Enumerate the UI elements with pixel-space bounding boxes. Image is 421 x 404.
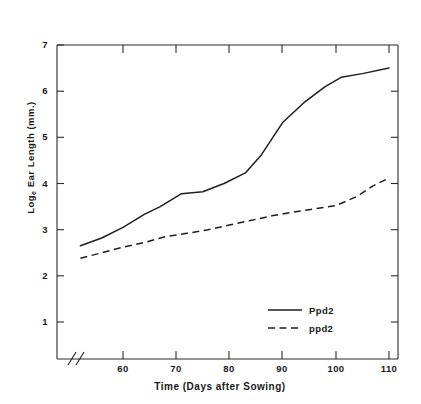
legend-label-ppd2-recessive: ppd2 xyxy=(309,323,333,334)
y-axis-title-suffix: Ear Length (mm.) xyxy=(25,101,36,190)
x-tick-label-110: 110 xyxy=(374,363,404,374)
y-ticks-right xyxy=(391,91,398,322)
y-axis-title-subscript: e xyxy=(30,190,37,194)
legend: Ppd2 ppd2 xyxy=(268,301,378,337)
plot-canvas xyxy=(0,0,421,404)
x-ticks-bottom xyxy=(123,351,389,359)
series-line-ppd2-dominant xyxy=(80,68,389,246)
x-tick-label-90: 90 xyxy=(267,363,297,374)
x-tick-label-70: 70 xyxy=(161,363,191,374)
x-axis-title: Time (Days after Sowing) xyxy=(80,381,360,392)
x-ticks-top xyxy=(123,45,389,53)
y-axis-title-prefix: Log xyxy=(25,195,36,214)
x-tick-label-100: 100 xyxy=(321,363,351,374)
y-ticks-left xyxy=(57,45,64,322)
legend-swatch-dashed xyxy=(268,323,302,333)
y-tick-label-1: 1 xyxy=(30,316,48,327)
y-tick-label-2: 2 xyxy=(30,270,48,281)
y-axis-title: Loge Ear Length (mm.) xyxy=(25,83,36,233)
series-line-ppd2-recessive xyxy=(80,178,389,258)
legend-swatch-solid xyxy=(268,305,302,315)
legend-entry-ppd2-recessive: ppd2 xyxy=(268,319,378,337)
legend-label-ppd2-dominant: Ppd2 xyxy=(309,305,334,316)
legend-entry-ppd2-dominant: Ppd2 xyxy=(268,301,378,319)
figure-container: 1 2 3 4 5 6 7 60 70 80 90 100 110 Loge E… xyxy=(0,0,421,404)
y-tick-label-7: 7 xyxy=(30,39,48,50)
x-tick-label-80: 80 xyxy=(214,363,244,374)
x-tick-label-60: 60 xyxy=(108,363,138,374)
